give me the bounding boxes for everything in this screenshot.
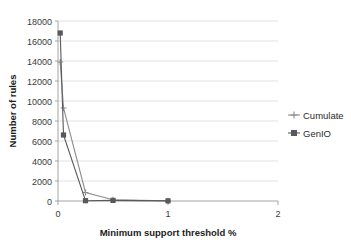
chart-container: 18000 16000 14000 12000 10000 8000 6000 …	[0, 0, 351, 245]
legend: Cumulate GenIO	[288, 110, 344, 139]
y-tick-label: 14000	[27, 57, 52, 67]
data-point-marker	[110, 198, 115, 203]
y-tick-label: 2000	[32, 177, 52, 187]
series-line	[60, 62, 168, 201]
y-tick-label: 8000	[32, 117, 52, 127]
series-genio	[58, 30, 171, 203]
data-point-marker	[83, 198, 88, 203]
data-point-marker	[61, 132, 66, 137]
y-tick-labels: 18000 16000 14000 12000 10000 8000 6000 …	[27, 17, 52, 207]
data-point-marker	[165, 198, 170, 203]
x-tick-label: 1	[165, 209, 170, 219]
legend-item-genio[interactable]: GenIO	[288, 128, 331, 139]
line-chart: 18000 16000 14000 12000 10000 8000 6000 …	[0, 0, 351, 245]
data-point-marker	[61, 105, 67, 111]
y-tick-label: 4000	[32, 157, 52, 167]
plus-marker-icon	[291, 112, 298, 119]
y-tick-label: 6000	[32, 137, 52, 147]
data-point-marker	[58, 30, 63, 35]
y-tick-label: 12000	[27, 77, 52, 87]
legend-label: GenIO	[303, 128, 331, 139]
x-tick-labels: 0 1 2	[55, 209, 280, 219]
x-tick-label: 2	[275, 209, 280, 219]
legend-label: Cumulate	[303, 110, 344, 121]
x-axis-title: Minimum support threshold %	[100, 227, 237, 238]
y-axis-title: Number of rules	[7, 75, 18, 148]
series-layer	[57, 30, 171, 203]
square-marker-icon	[291, 130, 297, 136]
y-tick-label: 0	[47, 197, 52, 207]
x-tick-label: 0	[55, 209, 60, 219]
y-tick-label: 10000	[27, 97, 52, 107]
legend-item-cumulate[interactable]: Cumulate	[288, 110, 344, 121]
y-tick-label: 18000	[27, 17, 52, 27]
y-tick-label: 16000	[27, 37, 52, 47]
gridlines	[58, 21, 278, 181]
series-line	[60, 33, 168, 201]
